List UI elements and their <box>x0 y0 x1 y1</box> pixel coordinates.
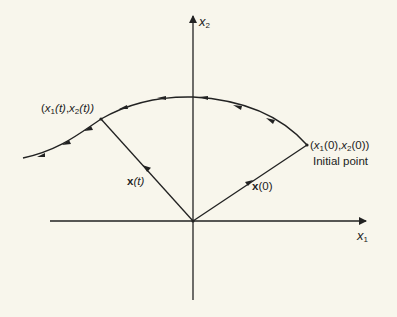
arrowhead-icon <box>266 118 275 124</box>
arg-0: (0) <box>324 139 338 151</box>
vector-x0-label: x(0) <box>252 181 272 193</box>
arrowhead-icon <box>62 140 71 145</box>
arg-t: (t) <box>55 102 66 114</box>
initial-point-label: (x1(0),x2(0)) <box>310 140 369 153</box>
arg-t-close: (t)) <box>79 102 94 114</box>
vector-xt-label: x(t) <box>127 176 144 188</box>
initial-point-caption: Initial point <box>313 156 368 168</box>
x2-axis-sub: 2 <box>206 21 210 30</box>
arrowhead-icon <box>119 105 128 109</box>
arrowhead-icon <box>233 105 242 110</box>
arg-t: (t) <box>133 175 144 187</box>
x1-axis-sub: 1 <box>364 235 368 244</box>
x1-axis-label: x1 <box>357 229 368 244</box>
vector-xt-arrowhead-icon <box>143 165 151 172</box>
x2-axis-label: x2 <box>199 15 210 30</box>
arg-0: (0) <box>258 180 272 192</box>
current-point-dot <box>99 117 102 120</box>
current-point-label: (x1(t),x2(t)) <box>41 103 94 116</box>
origin-dot <box>191 219 194 222</box>
arg-0-close: (0)) <box>352 139 370 151</box>
initial-point-dot <box>305 143 308 146</box>
